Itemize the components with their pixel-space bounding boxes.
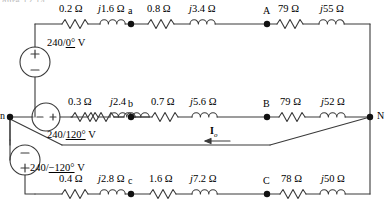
source-c-unit: V <box>77 162 85 173</box>
impedance-label-mid-r1: 0.3 Ω <box>68 97 92 108</box>
impedance-label-top-l3: j55 Ω <box>320 4 344 15</box>
impedance-label-top-r2: 0.8 Ω <box>147 4 171 15</box>
current-arrow-io <box>205 138 230 143</box>
impedance-label-top-r3: 79 Ω <box>278 4 299 15</box>
impedance-label-mid-r2: 0.7 Ω <box>151 97 175 108</box>
node-label-N: N <box>377 111 386 121</box>
source-label-phase-c: 240/−120° V <box>30 163 85 174</box>
impedance-label-top-l2: j3.4 Ω <box>189 4 215 15</box>
source-c-magnitude: 240 <box>30 162 46 173</box>
impedance-label-mid-l2: j5.6 Ω <box>190 97 216 108</box>
source-b-angle: 120° <box>66 129 86 140</box>
circuit-diagram: gure 12.14 <box>0 0 386 206</box>
source-a-angle: 0° <box>66 37 75 48</box>
impedance-label-mid-l1: j2.4 <box>110 97 126 108</box>
node-label-A: A <box>263 6 270 16</box>
source-b-unit: V <box>88 129 96 140</box>
impedance-label-bot-l3: j50 Ω <box>321 174 345 185</box>
impedance-label-bot-r2: 1.6 Ω <box>149 174 173 185</box>
source-label-phase-b: 240/120° V <box>47 130 96 141</box>
impedance-label-mid-l3: j52 Ω <box>321 97 345 108</box>
node-label-a: a <box>128 6 132 16</box>
impedance-label-bot-l1: j2.8 Ω <box>98 174 124 185</box>
node-label-b: b <box>128 99 133 109</box>
top-branch <box>35 20 370 29</box>
impedance-label-bot-l2: j7.2 Ω <box>190 174 216 185</box>
node-label-C: C <box>263 176 270 186</box>
current-label-io: Io <box>210 126 217 139</box>
node-label-n: n <box>0 111 5 121</box>
middle-branch-wires <box>10 113 370 122</box>
impedance-label-top-r1: 0.2 Ω <box>59 4 83 15</box>
source-b-magnitude: 240 <box>47 129 63 140</box>
current-subscript: o <box>214 131 218 139</box>
impedance-label-bot-r1: 0.4 Ω <box>59 174 83 185</box>
source-c-angle: −120° <box>49 162 75 173</box>
impedance-label-mid-r3: 79 Ω <box>280 97 301 108</box>
bottom-branch <box>35 190 370 199</box>
source-a-unit: V <box>78 37 86 48</box>
impedance-label-bot-r3: 78 Ω <box>281 174 302 185</box>
source-a-magnitude: 240 <box>47 37 63 48</box>
impedance-label-top-l1: j1.6 Ω <box>98 4 124 15</box>
source-label-phase-a: 240/0° V <box>47 38 85 49</box>
node-label-c: c <box>128 176 132 186</box>
node-label-B: B <box>263 99 270 109</box>
